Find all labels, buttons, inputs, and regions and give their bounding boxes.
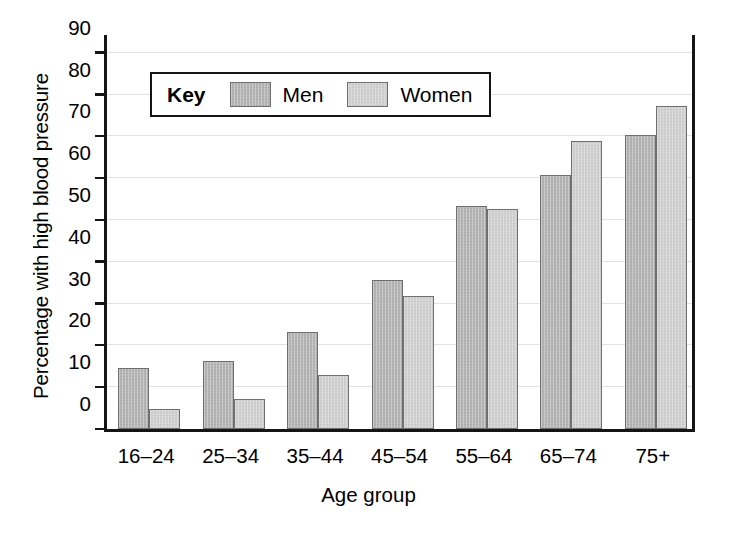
- bar-men-6: [625, 135, 656, 429]
- y-tick-label: 40: [68, 225, 91, 249]
- x-tick-label: 75+: [635, 444, 670, 468]
- bar-men-4: [456, 206, 487, 429]
- y-tick-label: 90: [68, 16, 91, 40]
- y-tick-label: 50: [68, 183, 91, 207]
- bar-women-0: [149, 409, 180, 429]
- y-axis-title: Percentage with high blood pressure: [29, 26, 53, 446]
- legend: Key MenWomen: [150, 72, 491, 117]
- legend-entry-men: Men: [230, 82, 324, 107]
- bar-men-0: [118, 368, 149, 429]
- y-tick-label: 0: [80, 392, 91, 416]
- gridline: [107, 219, 692, 220]
- y-tick-mark: [95, 177, 104, 180]
- y-tick-label: 80: [68, 58, 91, 82]
- gridline: [107, 135, 692, 136]
- bar-women-6: [656, 106, 687, 429]
- x-tick-label: 25–34: [202, 444, 259, 468]
- bar-women-5: [571, 141, 602, 429]
- x-axis-title: Age group: [0, 483, 737, 507]
- y-tick-label: 20: [68, 309, 91, 333]
- y-tick-mark: [95, 135, 104, 138]
- bar-men-5: [540, 175, 571, 429]
- bar-men-3: [372, 280, 403, 429]
- legend-entry-women: Women: [347, 82, 472, 107]
- legend-label-women: Women: [400, 83, 472, 107]
- x-tick-label: 65–74: [540, 444, 597, 468]
- y-tick-label: 60: [68, 142, 91, 166]
- y-tick-label: 70: [68, 100, 91, 124]
- gridline: [107, 177, 692, 178]
- bar-women-2: [318, 375, 349, 429]
- legend-entries: MenWomen: [230, 82, 497, 107]
- x-tick-label: 16–24: [118, 444, 175, 468]
- legend-swatch-men: [230, 82, 271, 107]
- y-tick-mark: [95, 219, 104, 222]
- x-tick-label: 55–64: [455, 444, 512, 468]
- bar-women-3: [403, 296, 434, 429]
- legend-label-men: Men: [283, 83, 324, 107]
- y-tick-label: 30: [68, 267, 91, 291]
- y-tick-mark: [95, 302, 104, 305]
- y-tick-mark: [95, 260, 104, 263]
- bar-women-1: [234, 399, 265, 430]
- bar-chart-figure: Percentage with high blood pressure 0102…: [0, 0, 737, 535]
- bar-women-4: [487, 209, 518, 429]
- legend-title: Key: [167, 83, 206, 107]
- y-tick-mark: [95, 93, 104, 96]
- bar-men-1: [203, 361, 234, 429]
- gridline: [107, 52, 692, 53]
- x-tick-label: 45–54: [371, 444, 428, 468]
- legend-swatch-women: [347, 82, 388, 107]
- bar-men-2: [287, 332, 318, 429]
- gridline: [107, 261, 692, 262]
- y-tick-mark: [95, 428, 104, 431]
- y-tick-mark: [95, 386, 104, 389]
- x-tick-label: 35–44: [287, 444, 344, 468]
- y-tick-mark: [95, 344, 104, 347]
- y-tick-label: 10: [68, 350, 91, 374]
- y-tick-mark: [95, 51, 104, 54]
